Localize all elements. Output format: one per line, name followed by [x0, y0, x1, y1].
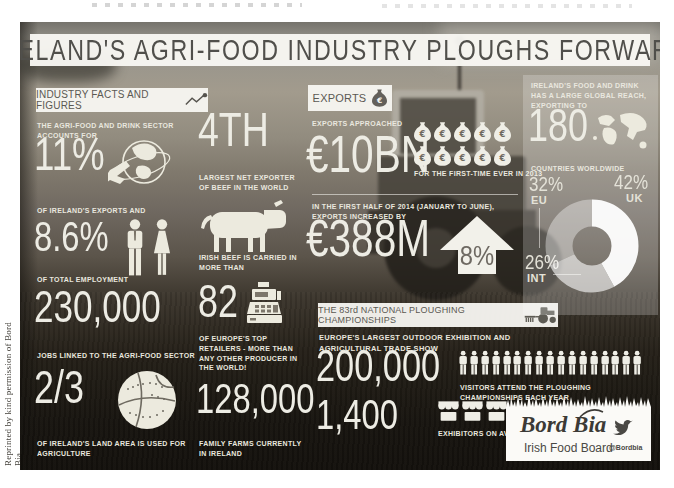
section-divider [312, 194, 518, 196]
farmland-icon [116, 369, 178, 431]
increase-percent: 8% [446, 240, 509, 272]
cow-icon [196, 198, 290, 254]
twitter-handle: @Bordbia [609, 444, 642, 451]
industry-facts-header: INDUSTRY FACTS AND FIGURES [36, 89, 179, 111]
money-bag-icon [414, 146, 431, 166]
person-icon [600, 350, 610, 376]
money-bag-icon [474, 146, 491, 166]
beef-rank-stat: 4TH [198, 106, 269, 154]
person-icon [567, 350, 577, 376]
employment-percent-stat: 8.6% [34, 216, 109, 258]
person-icon [621, 350, 631, 376]
person-icon [610, 350, 620, 376]
world-map-icon [590, 110, 652, 156]
person-icon [578, 350, 588, 376]
person-icon [502, 350, 512, 376]
cropped-text-remnant-left [92, 3, 302, 7]
ploughing-header-box: THE 83rd NATIONAL PLOUGHING CHAMPIONSHIP… [318, 303, 558, 327]
person-icon [632, 350, 642, 376]
exhibitor-stall-row [438, 400, 507, 422]
jobs-label: JOBS LINKED TO THE AGRI-FOOD SECTOR [37, 351, 207, 361]
money-bag-grid [414, 122, 512, 168]
twitter-bird-icon [612, 418, 634, 436]
cropped-text-remnant-right [382, 4, 632, 8]
exhibitors-stat: 1,400 [316, 394, 398, 436]
person-icon [469, 350, 479, 376]
person-icon [458, 350, 468, 376]
farms-label: FAMILY FARMS CURRENTLY IN IRELAND [199, 439, 311, 459]
money-bag-icon [474, 122, 491, 142]
market-stall-icon [462, 400, 483, 422]
industry-facts-header-box: INDUSTRY FACTS AND FIGURES [36, 88, 208, 112]
market-stall-icon [486, 400, 507, 422]
money-bag-icon [454, 146, 471, 166]
person-icon [545, 350, 555, 376]
land-stat: 2/3 [34, 364, 84, 410]
exports-increase-stat: €388M [306, 212, 430, 264]
export-destination-donut-chart [542, 196, 642, 296]
money-bag-icon [494, 122, 511, 142]
exports-percent-stat: 11% [34, 130, 105, 177]
money-bag-icon [414, 122, 431, 142]
person-icon [523, 350, 533, 376]
eu-percent: 32% [529, 173, 563, 196]
money-bag-icon [434, 146, 451, 166]
person-icon [534, 350, 544, 376]
retailers-label: OF EUROPE'S TOP RETAILERS - MORE THAN AN… [199, 334, 307, 373]
ploughing-header: THE 83rd NATIONAL PLOUGHING CHAMPIONSHIP… [318, 305, 517, 325]
visitors-stat: 200,000 [316, 344, 440, 388]
infographic-title: IRELAND'S AGRI-FOOD INDUSTRY PLOUGHS FOR… [20, 34, 660, 67]
beef-carried-intro: IRISH BEEF IS CARRIED IN MORE THAN [199, 253, 301, 273]
exports-total-stat: €10BN [306, 128, 430, 180]
globe-plane-icon [108, 136, 172, 192]
person-icon [556, 350, 566, 376]
male-icon [124, 219, 146, 277]
cash-register-icon [246, 282, 284, 328]
visitor-people-row [458, 350, 643, 376]
exports-header: EXPORTS [313, 92, 367, 104]
infographic-canvas: IRELAND'S AGRI-FOOD INDUSTRY PLOUGHS FOR… [20, 22, 660, 470]
person-icon [491, 350, 501, 376]
market-stall-icon [438, 400, 459, 422]
exports-header-box: EXPORTS [308, 85, 392, 111]
female-icon [151, 219, 173, 277]
bord-bia-logo-box: Bord Bia Irish Food Board @Bordbia [506, 410, 651, 461]
person-icon [480, 350, 490, 376]
person-icon [589, 350, 599, 376]
person-icon [512, 350, 522, 376]
money-bag-icon [372, 89, 387, 107]
logo-leaf-swoosh [578, 408, 604, 418]
retailers-stat: 82 [198, 278, 238, 324]
eu-leader-line [539, 208, 540, 248]
countries-stat: 180 [528, 102, 588, 148]
money-bag-icon [494, 146, 511, 166]
farms-stat: 128,000 [196, 378, 314, 420]
money-bag-icon [454, 122, 471, 142]
money-bag-icon [434, 122, 451, 142]
scanned-page: Reprinted by kind permission of Bord Bia… [0, 0, 674, 488]
increase-arrow: 8% [440, 216, 514, 274]
jobs-stat: 230,000 [34, 284, 161, 329]
logo-tagline: Irish Food Board [524, 441, 613, 455]
uk-percent: 42% [614, 171, 648, 194]
beef-rank-label: LARGEST NET EXPORTER OF BEEF IN THE WORL… [199, 173, 301, 193]
land-label: OF IRELAND'S LAND AREA IS USED FOR AGRIC… [37, 439, 207, 459]
infographic-title-banner: IRELAND'S AGRI-FOOD INDUSTRY PLOUGHS FOR… [30, 34, 650, 66]
